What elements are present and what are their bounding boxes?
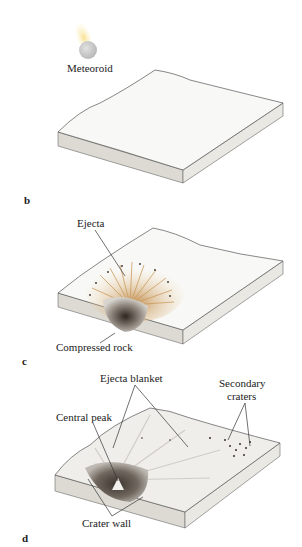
meteoroid-icon — [72, 19, 97, 59]
central-peak-label: Central peak — [56, 412, 112, 423]
panel-letter-c: c — [22, 356, 27, 367]
panel-letter-d: d — [22, 533, 28, 544]
secondary-craters-label-line1: Secondary — [219, 378, 265, 389]
ejecta-label: Ejecta — [77, 218, 104, 229]
meteoroid-label: Meteoroid — [67, 63, 113, 74]
ejecta-blanket-label: Ejecta blanket — [100, 373, 163, 384]
panel-c — [58, 228, 283, 344]
secondary-craters-label-line2: craters — [227, 391, 256, 402]
compressed-rock-label: Compressed rock — [56, 342, 133, 353]
block-b — [58, 70, 283, 183]
panel-letter-b: b — [24, 195, 30, 206]
crater-wall-label: Crater wall — [82, 518, 131, 529]
panel-d — [55, 408, 280, 528]
impact-illustration — [0, 0, 302, 547]
panel-b — [58, 19, 283, 183]
